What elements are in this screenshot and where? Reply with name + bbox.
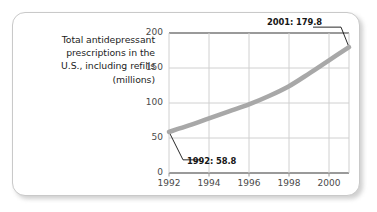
gridlines (169, 33, 349, 173)
ytick-label-200: 200 (127, 27, 163, 37)
xtick-label-1994: 1994 (189, 178, 229, 188)
leader-line-start (169, 132, 183, 160)
xtick-label-2000: 2000 (309, 178, 349, 188)
xtick-label-1996: 1996 (229, 178, 269, 188)
xtick-label-1992: 1992 (149, 178, 189, 188)
annotation-end: 2001: 179.8 (267, 17, 322, 27)
chart-svg (13, 13, 361, 197)
ytick-label-150: 150 (127, 62, 163, 72)
chart-frame: Total antidepressant prescriptions in th… (12, 12, 360, 196)
line-chart-plot: 050100150200 19921994199619982000 1992: … (13, 13, 361, 197)
xtick-label-1998: 1998 (269, 178, 309, 188)
annotation-start: 1992: 58.8 (187, 156, 236, 166)
leader-line-end (341, 27, 349, 47)
series-path (169, 47, 349, 132)
annotation-leader-lines (169, 27, 349, 160)
ytick-label-100: 100 (127, 97, 163, 107)
ytick-label-0: 0 (127, 167, 163, 177)
data-series-line (169, 47, 349, 132)
ytick-label-50: 50 (127, 132, 163, 142)
